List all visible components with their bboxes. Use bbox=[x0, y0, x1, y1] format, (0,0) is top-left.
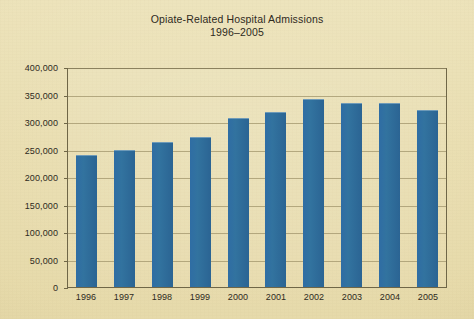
y-axis-tick-label: 200,000 bbox=[0, 173, 58, 183]
bar-slot bbox=[257, 69, 295, 287]
y-axis-labels: 050,000100,000150,000200,000250,000300,0… bbox=[0, 68, 62, 288]
x-axis-tick-label: 1996 bbox=[67, 292, 105, 302]
x-axis-tick-label: 2001 bbox=[257, 292, 295, 302]
bar-slot bbox=[295, 69, 333, 287]
y-axis-tick-label: 100,000 bbox=[0, 228, 58, 238]
y-axis-tick-label: 150,000 bbox=[0, 201, 58, 211]
y-axis-tick-label: 250,000 bbox=[0, 146, 58, 156]
x-axis-labels: 1996199719981999200020012002200320042005 bbox=[67, 292, 447, 302]
x-axis-tick-label: 1998 bbox=[143, 292, 181, 302]
chart-title: Opiate-Related Hospital Admissions bbox=[0, 13, 474, 26]
y-axis-tick-label: 300,000 bbox=[0, 118, 58, 128]
bar-slot bbox=[144, 69, 182, 287]
bar-2004 bbox=[379, 103, 400, 287]
plot-area bbox=[67, 68, 447, 288]
y-axis-tick-label: 350,000 bbox=[0, 91, 58, 101]
bar-slot bbox=[370, 69, 408, 287]
bar-2001 bbox=[265, 112, 286, 287]
bar-2003 bbox=[341, 103, 362, 287]
bar-slot bbox=[408, 69, 446, 287]
bar-slot bbox=[219, 69, 257, 287]
bar-2000 bbox=[228, 118, 249, 287]
y-axis-tick-label: 0 bbox=[0, 283, 58, 293]
x-axis-tick-label: 1997 bbox=[105, 292, 143, 302]
x-axis-tick-label: 1999 bbox=[181, 292, 219, 302]
y-axis-tick-label: 50,000 bbox=[0, 256, 58, 266]
bar-series bbox=[68, 69, 446, 287]
x-axis-tick-label: 2002 bbox=[295, 292, 333, 302]
bar-1998 bbox=[152, 142, 173, 287]
bar-slot bbox=[106, 69, 144, 287]
chart-subtitle: 1996–2005 bbox=[0, 26, 474, 39]
y-axis-tick-label: 400,000 bbox=[0, 63, 58, 73]
x-axis-tick-label: 2005 bbox=[409, 292, 447, 302]
bar-2005 bbox=[417, 110, 438, 287]
bar-1997 bbox=[114, 150, 135, 287]
x-axis-tick-label: 2003 bbox=[333, 292, 371, 302]
bar-2002 bbox=[303, 99, 324, 287]
bar-slot bbox=[333, 69, 371, 287]
x-axis-tick-label: 2004 bbox=[371, 292, 409, 302]
bar-slot bbox=[68, 69, 106, 287]
y-axis-tick-mark bbox=[64, 288, 68, 289]
x-axis-tick-label: 2000 bbox=[219, 292, 257, 302]
bar-1999 bbox=[190, 137, 211, 287]
bar-slot bbox=[181, 69, 219, 287]
bar-1996 bbox=[76, 155, 97, 287]
chart-title-block: Opiate-Related Hospital Admissions 1996–… bbox=[0, 13, 474, 39]
